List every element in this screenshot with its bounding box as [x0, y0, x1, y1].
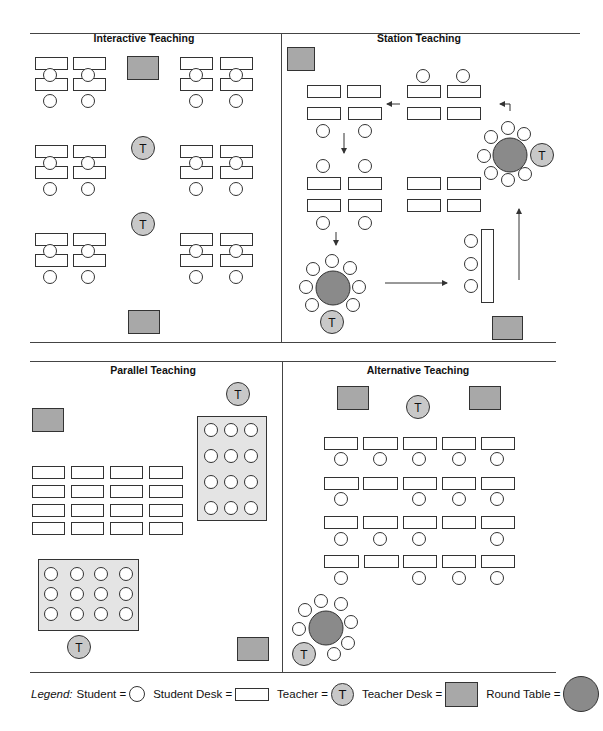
student-icon	[465, 235, 478, 248]
student-desk-icon	[111, 505, 143, 517]
student-icon	[359, 125, 372, 138]
student-icon	[335, 453, 348, 466]
student-icon	[129, 686, 145, 702]
teacher-icon: T	[132, 137, 155, 160]
student-icon	[44, 69, 57, 82]
student-desk-icon	[181, 58, 213, 70]
student-icon	[317, 217, 330, 230]
student-icon	[190, 95, 203, 108]
round-table-icon	[316, 271, 350, 305]
student-desk-icon	[365, 556, 399, 568]
student-desk-icon	[448, 108, 481, 120]
student-icon	[413, 493, 426, 506]
student-desk-icon	[448, 200, 481, 212]
student-desk-icon	[364, 517, 398, 529]
student-icon	[453, 453, 466, 466]
panel-parallel: Parallel TeachingTT	[33, 364, 269, 661]
student-icon	[478, 150, 491, 163]
student-icon	[71, 588, 84, 601]
student-icon	[95, 588, 108, 601]
student-desk-icon	[443, 517, 476, 529]
student-desk-icon	[448, 86, 481, 98]
student-icon	[315, 595, 328, 608]
round-table-icon	[309, 611, 343, 645]
student-icon	[82, 245, 95, 258]
teacher-icon: T	[293, 643, 316, 666]
legend-item-student-desk: Student Desk =	[153, 688, 269, 701]
student-icon	[230, 95, 243, 108]
teacher-icon: T	[227, 383, 250, 406]
panel-title: Interactive Teaching	[94, 32, 195, 44]
student-desk-icon	[308, 86, 341, 98]
student-desk-icon	[72, 505, 104, 517]
student-icon	[417, 70, 430, 83]
student-icon	[328, 648, 341, 661]
student-icon	[205, 476, 218, 489]
student-icon	[45, 568, 58, 581]
svg-text:T: T	[538, 149, 546, 163]
student-desk-icon	[448, 178, 481, 190]
student-icon	[347, 299, 360, 312]
student-desk-icon	[404, 556, 437, 568]
student-icon	[225, 476, 238, 489]
student-icon	[190, 183, 203, 196]
student-icon	[485, 131, 498, 144]
teacher-desk-icon	[129, 311, 160, 334]
student-icon	[491, 493, 504, 506]
legend-item-student: Student =	[77, 686, 146, 702]
student-icon	[326, 255, 339, 268]
svg-text:T: T	[75, 641, 83, 655]
student-desk-icon	[364, 438, 398, 450]
student-icon	[120, 608, 133, 621]
student-desk-icon	[443, 556, 476, 568]
student-icon	[453, 572, 466, 585]
svg-text:T: T	[139, 142, 147, 156]
student-desk-icon	[33, 523, 65, 535]
student-icon	[44, 157, 57, 170]
student-desk-icon	[74, 146, 106, 158]
student-icon	[502, 122, 515, 135]
student-icon	[485, 167, 498, 180]
student-desk-icon	[150, 523, 183, 535]
student-icon	[491, 572, 504, 585]
student-icon	[44, 183, 57, 196]
student-icon	[374, 453, 387, 466]
student-icon	[465, 280, 478, 293]
student-icon	[120, 588, 133, 601]
student-icon	[205, 502, 218, 515]
teacher-desk-icon	[470, 387, 501, 410]
student-icon	[230, 245, 243, 258]
student-icon	[359, 160, 372, 173]
panel-interactive: Interactive TeachingTT	[36, 32, 253, 334]
round-table-icon	[493, 138, 527, 172]
student-icon	[457, 70, 470, 83]
student-desk-icon	[181, 234, 213, 246]
student-icon	[353, 281, 366, 294]
student-icon	[345, 616, 358, 629]
student-icon	[245, 476, 258, 489]
student-icon	[82, 157, 95, 170]
student-desk-icon	[349, 178, 382, 190]
svg-text:T: T	[328, 316, 336, 330]
student-desk-icon	[74, 234, 106, 246]
student-icon	[230, 183, 243, 196]
student-desk-icon	[221, 58, 253, 70]
student-icon	[225, 450, 238, 463]
panel-title: Station Teaching	[377, 32, 461, 44]
student-desk-icon	[36, 58, 68, 70]
student-desk-icon	[404, 478, 437, 490]
teacher-icon: T	[68, 636, 91, 659]
student-desk-icon	[111, 467, 143, 479]
student-icon	[359, 217, 372, 230]
student-icon	[82, 183, 95, 196]
student-icon	[45, 608, 58, 621]
student-icon	[120, 568, 133, 581]
teacher-icon: T	[132, 213, 155, 236]
student-desk-icon	[364, 478, 398, 490]
legend-item-teacher: Teacher = T	[277, 683, 354, 706]
student-icon	[335, 572, 348, 585]
student-icon	[71, 568, 84, 581]
student-desk-icon	[443, 478, 476, 490]
student-icon	[95, 608, 108, 621]
student-desk-icon	[33, 486, 65, 498]
